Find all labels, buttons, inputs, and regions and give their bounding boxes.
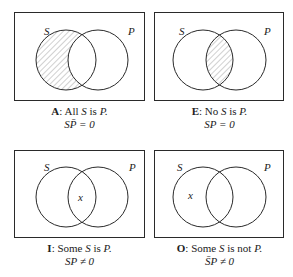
x-mark-s-not-p: x: [187, 189, 193, 201]
label-p: P: [263, 25, 271, 37]
label-s: S: [44, 161, 50, 173]
caption-a: A: All S is P. SP̄ = 0: [14, 105, 145, 131]
circle-s: [173, 167, 233, 227]
statement-e: E: No S is P.: [154, 105, 285, 118]
x-mark-intersection: x: [77, 191, 83, 203]
caption-i: I: Some S is P. SP ≠ 0: [14, 242, 145, 268]
formula-a: SP̄ = 0: [14, 118, 145, 131]
statement-a: A: All S is P.: [14, 105, 145, 118]
venn-panel-a: S P A: All S is P. SP̄ = 0: [14, 12, 145, 131]
circle-p: [206, 167, 266, 227]
venn-diagram-a: S P: [14, 12, 145, 101]
venn-panel-i: S P x I: Some S is P. SP ≠ 0: [14, 150, 145, 268]
circle-s: [36, 167, 96, 227]
formula-e: SP = 0: [154, 118, 285, 131]
venn-panel-o: S P x O: Some S is not P. S̄P ≠ 0: [154, 150, 285, 268]
venn-diagram-i: S P x: [14, 150, 145, 238]
caption-e: E: No S is P. SP = 0: [154, 105, 285, 131]
label-p: P: [127, 25, 135, 37]
formula-o: S̄P ≠ 0: [154, 255, 285, 268]
label-p: P: [128, 161, 136, 173]
venn-panel-e: S P E: No S is P. SP = 0: [154, 12, 285, 131]
circle-p: [68, 167, 128, 227]
label-p: P: [263, 161, 271, 173]
venn-diagram-e: S P: [154, 12, 284, 101]
statement-i: I: Some S is P.: [14, 242, 145, 255]
label-s: S: [44, 25, 50, 37]
caption-o: O: Some S is not P. S̄P ≠ 0: [154, 242, 285, 268]
label-s: S: [179, 25, 185, 37]
venn-diagram-o: S P x: [154, 150, 284, 238]
statement-o: O: Some S is not P.: [154, 242, 285, 255]
label-s: S: [177, 161, 183, 173]
formula-i: SP ≠ 0: [14, 255, 145, 268]
